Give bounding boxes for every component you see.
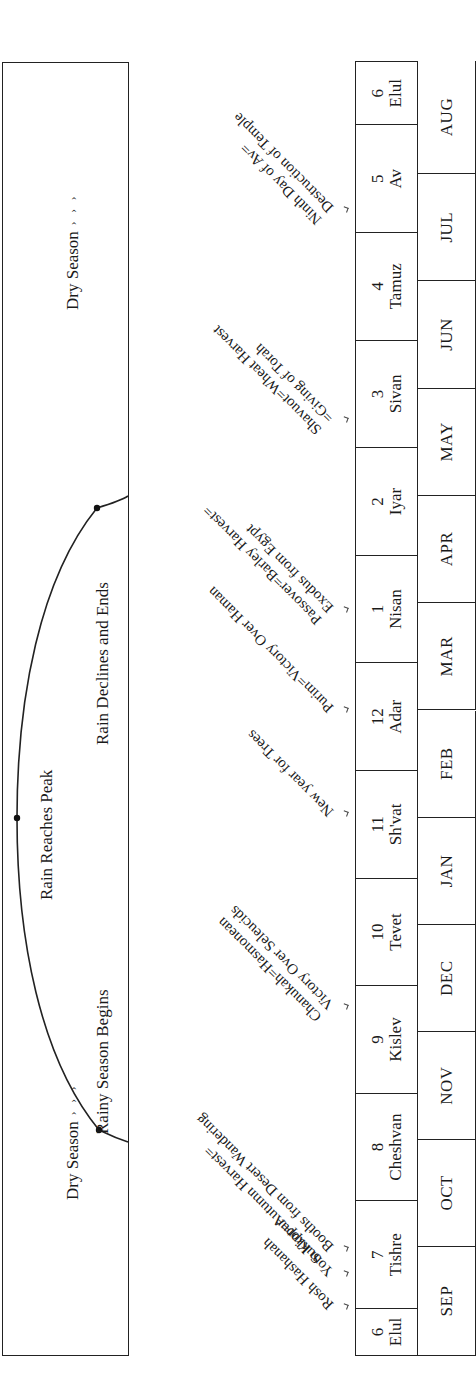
hebrew-month-cell: 11Sh'vat: [355, 771, 418, 879]
hebrew-month-number: 6: [369, 1328, 387, 1337]
hebrew-month-name: Tamuz: [387, 263, 405, 309]
hebrew-month-cell: 8Cheshvan: [355, 1094, 418, 1202]
gregorian-month-cell: MAR: [418, 603, 476, 710]
hebrew-month-name: Sh'vat: [387, 803, 405, 845]
gregorian-month-cell: NOV: [418, 1032, 476, 1139]
rain-declines-label: Rain Declines and Ends: [94, 582, 111, 745]
hebrew-month-cell: 10Tevet: [355, 879, 418, 987]
gregorian-month-cell: OCT: [418, 1140, 476, 1247]
hebrew-month-cell: 12Adar: [355, 663, 418, 771]
rain-peak-dot: [14, 815, 20, 821]
hebrew-month-number: 8: [369, 1143, 387, 1152]
hebrew-month-number: 2: [369, 497, 387, 506]
gregorian-month-cell: SEP: [418, 1247, 476, 1356]
hebrew-month-number: 5: [369, 174, 387, 183]
rain-declines-dot: [94, 505, 100, 511]
hebrew-month-cell: 1Nisan: [355, 556, 418, 664]
hebrew-month-name: Kislev: [387, 1017, 405, 1061]
hebrew-month-number: 1: [369, 605, 387, 614]
chevron-right-icon: › › ›: [66, 1084, 78, 1116]
hebrew-month-cell: 3Sivan: [355, 341, 418, 449]
hebrew-month-cell: 2Iyar: [355, 448, 418, 556]
month-table: 6Elul7Tishre8Cheshvan9Kislev10Tevet11Sh'…: [355, 0, 475, 1356]
hebrew-month-name: Iyar: [387, 488, 405, 515]
hebrew-month-name: Av: [387, 169, 405, 189]
hebrew-month-cell: 6Elul: [355, 1309, 418, 1356]
hebrew-month-name: Elul: [387, 79, 405, 107]
hebrew-month-name: Tevet: [387, 913, 405, 951]
gregorian-month-cell: AUG: [418, 61, 476, 174]
gregorian-month-cell: FEB: [418, 711, 476, 818]
hebrew-month-cell: 5Av: [355, 125, 418, 233]
hebrew-month-number: 12: [369, 708, 387, 725]
gregorian-month-cell: MAY: [418, 389, 476, 496]
hebrew-month-cell: 7Tishre: [355, 1201, 418, 1309]
hebrew-month-name: Sivan: [387, 375, 405, 414]
gregorian-month-cell: DEC: [418, 925, 476, 1032]
dry-season-text: Dry Season: [63, 231, 82, 310]
hebrew-month-cell: 9Kislev: [355, 986, 418, 1094]
hebrew-month-name: Adar: [387, 700, 405, 734]
hebrew-month-cell: 4Tamuz: [355, 233, 418, 341]
hebrew-month-name: Cheshvan: [387, 1114, 405, 1181]
hebrew-month-name: Nisan: [387, 589, 405, 629]
hebrew-month-number: 6: [369, 89, 387, 98]
dry-season-start-label: Dry Season› › ›: [64, 1084, 81, 1200]
hebrew-month-name: Tishre: [387, 1233, 405, 1276]
gregorian-month-cell: JUL: [418, 174, 476, 281]
hebrew-month-number: 11: [369, 816, 387, 832]
rain-peak-label: Rain Reaches Peak: [38, 770, 55, 900]
chevron-right-icon: › › ›: [66, 194, 78, 226]
hebrew-month-name: Elul: [387, 1318, 405, 1346]
hebrew-month-number: 9: [369, 1035, 387, 1044]
hebrew-month-cell: 6Elul: [355, 61, 418, 125]
hebrew-month-number: 3: [369, 390, 387, 399]
hebrew-month-number: 10: [369, 923, 387, 940]
hebrew-month-number: 7: [369, 1250, 387, 1259]
dry-season-end-label: Dry Season› › ›: [64, 194, 81, 310]
gregorian-month-cell: APR: [418, 496, 476, 603]
gregorian-month-cell: JAN: [418, 818, 476, 925]
gregorian-month-cell: JUN: [418, 281, 476, 388]
rainy-season-begins-label: Rainy Season Begins: [94, 990, 111, 1135]
dry-season-text: Dry Season: [63, 1121, 82, 1200]
hebrew-month-number: 4: [369, 282, 387, 291]
